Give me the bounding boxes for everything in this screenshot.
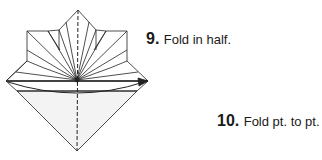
step-number: 9. (146, 30, 159, 47)
step-number: 10. (217, 112, 239, 129)
step-instruction: Fold pt. to pt. (244, 114, 320, 129)
step-instruction: Fold in half. (164, 32, 231, 47)
step-9: 9. Fold in half. (146, 30, 231, 48)
step-10: 10. Fold pt. to pt. (217, 112, 320, 130)
upper-outline (6, 10, 148, 81)
origami-diagram (0, 0, 160, 160)
